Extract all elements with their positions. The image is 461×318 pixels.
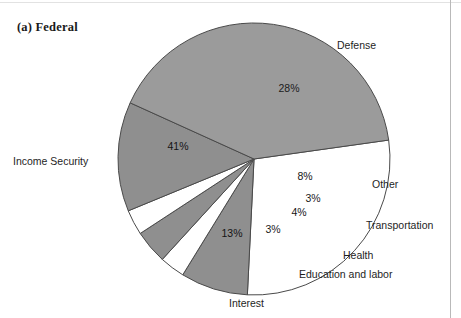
pie-value-label-transportation: 3% — [305, 192, 320, 204]
pie-value-label-interest: 13% — [221, 227, 242, 239]
pie-category-label-defense: Defense — [337, 39, 376, 51]
pie-value-label-income-security: 41% — [167, 140, 188, 152]
pie-value-label-education-and-labor: 3% — [265, 223, 280, 235]
pie-category-label-interest: Interest — [229, 297, 264, 309]
pie-category-label-other: Other — [372, 178, 398, 190]
pie-chart-figure: (a) Federal 28%8%3%4%3%13%41% DefenseOth… — [0, 0, 461, 318]
pie-category-label-education-and-labor: Education and labor — [299, 268, 392, 280]
pie-category-label-income-security: Income Security — [13, 155, 88, 167]
pie-category-label-transportation: Transportation — [366, 219, 433, 231]
pie-value-label-health: 4% — [291, 206, 306, 218]
pie-value-label-defense: 28% — [278, 82, 299, 94]
pie-category-label-health: Health — [343, 249, 373, 261]
pie-value-label-other: 8% — [297, 170, 312, 182]
